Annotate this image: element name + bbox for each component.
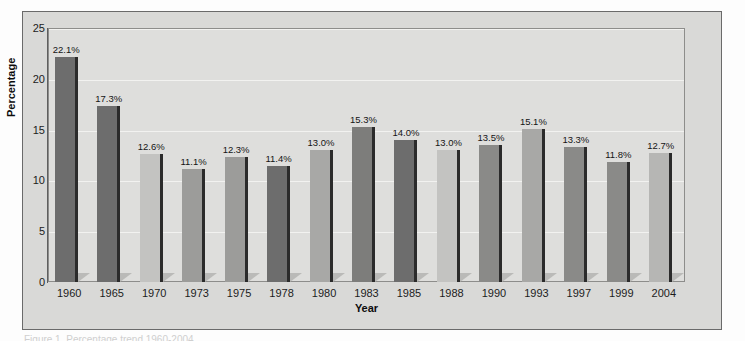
bar-value-label: 15.3% (346, 115, 381, 125)
bar[interactable] (310, 150, 333, 282)
bar-value-label: 12.7% (643, 141, 678, 151)
bar[interactable] (140, 154, 163, 282)
bar-shadow (333, 273, 345, 282)
figure-caption: Figure 1. Percentage trend 1960-2004 (24, 334, 194, 341)
bar-slot: 12.6% (133, 28, 175, 282)
bar-shadow (630, 273, 642, 282)
bar[interactable] (564, 147, 587, 282)
x-tick-label: 1997 (558, 286, 600, 302)
bar-value-label: 11.4% (261, 154, 296, 164)
bar[interactable] (267, 166, 290, 282)
bar-shadow (545, 273, 557, 282)
bar-value-label: 15.1% (516, 117, 551, 127)
bar-value-label: 12.6% (134, 142, 169, 152)
y-tick-label: 10 (23, 175, 45, 186)
x-tick-label: 1980 (303, 286, 345, 302)
bar[interactable] (182, 169, 205, 282)
x-tick-label: 1985 (388, 286, 430, 302)
bar-shadow (163, 273, 175, 282)
x-tick-label: 1965 (90, 286, 132, 302)
bar-series: 22.1%17.3%12.6%11.1%12.3%11.4%13.0%15.3%… (48, 28, 685, 282)
bar-shadow (672, 273, 684, 282)
x-axis-title: Year (48, 302, 685, 314)
bar-slot: 13.0% (430, 28, 472, 282)
x-tick-label: 1978 (260, 286, 302, 302)
y-tick-label: 20 (23, 74, 45, 85)
bar-shadow (375, 273, 387, 282)
y-tick-label: 5 (23, 226, 45, 237)
x-axis-tick-labels: 1960196519701973197519781980198319851988… (48, 286, 685, 302)
bar-slot: 13.0% (303, 28, 345, 282)
x-tick-label: 1990 (473, 286, 515, 302)
bar-shadow (502, 273, 514, 282)
bar-slot: 17.3% (90, 28, 132, 282)
bar-value-label: 12.3% (219, 145, 254, 155)
bar-slot: 12.3% (218, 28, 260, 282)
x-tick-label: 1993 (515, 286, 557, 302)
bar-slot: 11.8% (600, 28, 642, 282)
bar-value-label: 13.0% (431, 138, 466, 148)
bar-value-label: 13.3% (558, 135, 593, 145)
bar-value-label: 11.8% (601, 150, 636, 160)
y-tick-label: 25 (23, 23, 45, 34)
x-tick-label: 1988 (430, 286, 472, 302)
bar-value-label: 13.5% (473, 133, 508, 143)
y-axis-title: Percentage (5, 58, 17, 117)
y-tick-label: 15 (23, 125, 45, 136)
bar[interactable] (437, 150, 460, 282)
bar[interactable] (649, 153, 672, 282)
x-tick-label: 1970 (133, 286, 175, 302)
bar-value-label: 13.0% (304, 138, 339, 148)
bar-slot: 11.1% (175, 28, 217, 282)
y-axis-tick-labels: 0510152025 (20, 12, 45, 298)
bar[interactable] (97, 106, 120, 282)
bar-shadow (120, 273, 132, 282)
x-tick-label: 1973 (175, 286, 217, 302)
bar[interactable] (479, 145, 502, 282)
x-tick-label: 2004 (643, 286, 685, 302)
bar-slot: 11.4% (260, 28, 302, 282)
bar[interactable] (225, 157, 248, 282)
bar-value-label: 11.1% (176, 157, 211, 167)
bar-shadow (78, 273, 90, 282)
chart-frame: 0510152025 Percentage 22.1%17.3%12.6%11.… (22, 11, 722, 330)
bar-slot: 14.0% (388, 28, 430, 282)
bar-value-label: 17.3% (91, 94, 126, 104)
bar[interactable] (352, 127, 375, 282)
x-tick-label: 1983 (345, 286, 387, 302)
bar[interactable] (394, 140, 417, 282)
x-tick-label: 1999 (600, 286, 642, 302)
bar[interactable] (55, 57, 78, 282)
bar-shadow (290, 273, 302, 282)
bar-value-label: 14.0% (388, 128, 423, 138)
bar-slot: 22.1% (48, 28, 90, 282)
bar-slot: 13.3% (558, 28, 600, 282)
bar-slot: 12.7% (643, 28, 685, 282)
x-tick-label: 1975 (218, 286, 260, 302)
bar-shadow (205, 273, 217, 282)
bar-value-label: 22.1% (49, 45, 84, 55)
y-tick-label: 0 (23, 277, 45, 288)
bar-shadow (587, 273, 599, 282)
chart-figure: 0510152025 Percentage 22.1%17.3%12.6%11.… (0, 0, 745, 341)
bar-shadow (460, 273, 472, 282)
bar-slot: 15.1% (515, 28, 557, 282)
bar[interactable] (522, 129, 545, 282)
x-tick-label: 1960 (48, 286, 90, 302)
bar[interactable] (607, 162, 630, 282)
bar-shadow (417, 273, 429, 282)
bar-slot: 13.5% (473, 28, 515, 282)
bar-slot: 15.3% (345, 28, 387, 282)
bar-shadow (248, 273, 260, 282)
